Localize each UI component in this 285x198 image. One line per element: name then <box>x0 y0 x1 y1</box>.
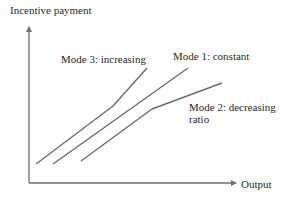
incentive-payment-diagram: Incentive payment Output Mode 3: increas… <box>0 0 285 198</box>
mode2-label-line1: Mode 2: decreasing <box>189 101 276 113</box>
y-axis-label: Incentive payment <box>10 4 92 16</box>
mode2-label: Mode 2: decreasing ratio <box>189 101 276 125</box>
mode2-label-line2: ratio <box>189 113 276 125</box>
mode1-label: Mode 1: constant <box>173 50 249 62</box>
mode3-increasing-line <box>36 68 147 164</box>
mode3-label: Mode 3: increasing <box>61 53 146 65</box>
x-axis-label: Output <box>241 178 272 190</box>
mode1-constant-line <box>53 68 188 164</box>
diagram-plot <box>0 0 285 198</box>
